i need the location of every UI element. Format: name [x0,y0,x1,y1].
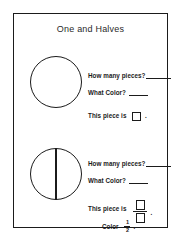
worksheet-page: One and Halves How many pieces? What Col… [13,13,168,228]
section-one-whole: How many pieces? What Color? This piece … [14,52,167,124]
fraction-denominator-box-icon[interactable] [136,213,146,223]
prompt-what-color: What Color? [88,177,148,184]
how-many-pieces-answer-blank[interactable] [146,160,171,167]
prompt-this-piece-is-fraction: This piece is . [88,198,152,221]
what-color-answer-blank[interactable] [129,89,148,96]
sentence-period: . [133,224,135,230]
prompt-how-many-pieces: How many pieces? [88,72,171,79]
fraction-numerator-box-icon[interactable] [136,200,146,210]
section-halves: How many pieces? What Color? This piece … [14,144,167,216]
what-color-label: What Color? [88,90,126,96]
sentence-period: . [145,113,147,119]
this-piece-is-label: This piece is [88,113,126,119]
vertical-divider-line-icon [55,148,57,200]
circle-shape-icon [30,56,82,108]
prompt-what-color: What Color? [88,89,148,96]
figure-halved-circle [30,148,82,200]
page-title: One and Halves [14,24,167,34]
sentence-period: . [150,210,152,216]
what-color-answer-blank[interactable] [129,177,148,184]
this-piece-is-label: This piece is [88,206,126,212]
figure-whole-circle [30,56,82,108]
prompt-this-piece-is: This piece is . [88,112,147,121]
color-label: Color [102,224,118,230]
how-many-pieces-answer-blank[interactable] [146,72,171,79]
what-color-label: What Color? [88,178,126,184]
fraction-bar-icon [133,211,147,213]
how-many-pieces-label: How many pieces? [88,161,146,167]
box-fraction-answer [133,200,147,223]
prompt-color-fraction: Color 1 2 . [102,220,135,233]
prompt-how-many-pieces: How many pieces? [88,160,171,167]
fraction-denominator: 2 [126,228,129,234]
how-many-pieces-label: How many pieces? [88,73,146,79]
fraction-numerator: 1 [126,220,129,226]
one-half-fraction: 1 2 [124,220,130,233]
answer-box-icon[interactable] [132,112,141,121]
